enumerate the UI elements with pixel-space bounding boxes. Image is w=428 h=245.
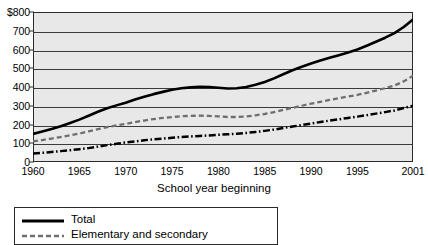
y-axis-tick-label: 500 <box>13 62 30 74</box>
y-axis-tick-label: 300 <box>13 100 30 112</box>
series-line-2 <box>33 76 413 142</box>
x-axis-tick-labels: 196019651970197519801985199019952001 <box>0 165 428 181</box>
x-axis-tick-label: 1975 <box>161 165 184 177</box>
y-axis-tick-label: $800 <box>7 6 30 18</box>
legend-line-sample <box>21 228 65 240</box>
legend-item: Total <box>21 211 277 226</box>
y-axis-tick-label: 600 <box>13 44 30 56</box>
series-line-3 <box>33 106 413 154</box>
x-axis-title: School year beginning <box>0 182 428 194</box>
y-axis-tick-labels: $8007006005004003002001000 <box>0 0 30 174</box>
chart-legend: TotalElementary and secondary <box>14 207 278 245</box>
series-lines <box>33 12 413 162</box>
y-axis-tick-label: 700 <box>13 25 30 37</box>
y-axis-tick-label: 100 <box>13 137 30 149</box>
x-axis-tick-label: 1985 <box>253 165 276 177</box>
legend-line-sample <box>21 213 65 225</box>
legend-item: Elementary and secondary <box>21 226 277 241</box>
legend-label: Elementary and secondary <box>71 228 208 240</box>
legend-label: Total <box>71 213 95 225</box>
x-axis-tick-label: 1990 <box>300 165 323 177</box>
x-axis-tick-label: 1980 <box>207 165 230 177</box>
y-axis-tick-label: 200 <box>13 119 30 131</box>
x-axis-tick-label: 2001 <box>402 165 425 177</box>
y-axis-tick-label: 400 <box>13 81 30 93</box>
x-axis-tick-label: 1970 <box>114 165 137 177</box>
x-axis-tick-label: 1960 <box>22 165 45 177</box>
x-axis-tick-label: 1965 <box>68 165 91 177</box>
x-axis-tick-label: 1995 <box>346 165 369 177</box>
